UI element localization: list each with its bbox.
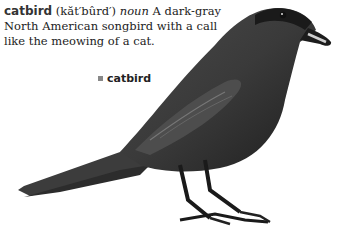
caption-text: catbird bbox=[107, 72, 151, 85]
illustration-caption: catbird bbox=[98, 72, 151, 85]
pronunciation: (kăt′bûrd′) bbox=[56, 4, 116, 18]
square-bullet-icon bbox=[98, 76, 103, 81]
part-of-speech: noun bbox=[120, 4, 149, 18]
dictionary-entry: catbird (kăt′bûrd′) noun A dark-gray Nor… bbox=[4, 4, 224, 49]
headword: catbird bbox=[4, 4, 52, 18]
